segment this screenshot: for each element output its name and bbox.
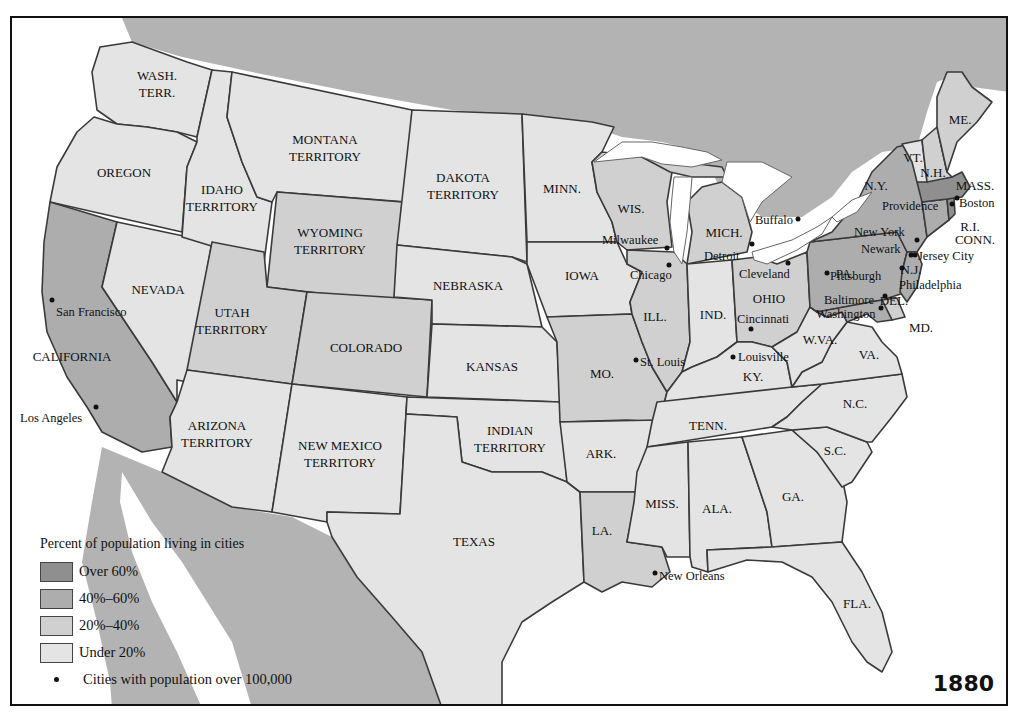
legend-swatch bbox=[40, 616, 73, 636]
label-sc: S.C. bbox=[824, 442, 846, 459]
city-milwaukee: Milwaukee bbox=[602, 233, 658, 247]
label-ri: R.I. bbox=[960, 218, 980, 235]
map-year: 1880 bbox=[933, 671, 994, 696]
label-utah: UTAHTERRITORY bbox=[196, 304, 268, 338]
label-oregon: OREGON bbox=[97, 164, 151, 181]
city-los-angeles: Los Angeles bbox=[20, 411, 82, 425]
legend-label: Under 20% bbox=[79, 644, 145, 661]
city-baltimore: Baltimore bbox=[824, 293, 874, 307]
city-dot-los-angeles bbox=[94, 405, 99, 410]
label-new-mexico: NEW MEXICOTERRITORY bbox=[298, 437, 382, 471]
city-marker-icon bbox=[54, 677, 59, 682]
city-dot-cleveland bbox=[786, 261, 791, 266]
city-dot-washington bbox=[879, 306, 884, 311]
label-kansas: KANSAS bbox=[466, 358, 518, 375]
label-montana: MONTANATERRITORY bbox=[289, 131, 361, 165]
label-dakota: DAKOTATERRITORY bbox=[427, 169, 499, 203]
label-ny: N.Y. bbox=[864, 177, 888, 194]
label-ohio: OHIO bbox=[753, 290, 786, 307]
map-frame: WASH.TERR. OREGON CALIFORNIA NEVADA IDAH… bbox=[10, 16, 1008, 706]
legend-label: Cities with population over 100,000 bbox=[83, 671, 292, 688]
label-md: MD. bbox=[909, 319, 933, 336]
label-ky: KY. bbox=[743, 368, 763, 385]
label-va: VA. bbox=[859, 346, 879, 363]
legend-item-under-20: Under 20% bbox=[40, 639, 292, 666]
city-newark: Newark bbox=[861, 242, 901, 256]
label-wis: WIS. bbox=[617, 200, 644, 217]
label-nh: N.H. bbox=[920, 164, 945, 181]
city-pittsburgh: Pittsburgh bbox=[830, 269, 881, 283]
legend-label: 40%–60% bbox=[79, 590, 139, 607]
label-mich: MICH. bbox=[705, 224, 742, 241]
label-fla: FLA. bbox=[843, 595, 871, 612]
label-idaho: IDAHOTERRITORY bbox=[186, 181, 258, 215]
label-nevada: NEVADA bbox=[131, 281, 184, 298]
label-texas: TEXAS bbox=[453, 533, 495, 550]
legend-swatch bbox=[40, 589, 73, 609]
city-st-louis: St. Louis bbox=[640, 355, 685, 369]
label-ala: ALA. bbox=[702, 500, 732, 517]
legend-item-20-40: 20%–40% bbox=[40, 612, 292, 639]
label-nc: N.C. bbox=[843, 395, 868, 412]
city-new-orleans: New Orleans bbox=[659, 569, 725, 583]
label-minn: MINN. bbox=[543, 180, 581, 197]
city-dot-san-francisco bbox=[50, 298, 55, 303]
label-ind: IND. bbox=[700, 306, 726, 323]
label-nebraska: NEBRASKA bbox=[433, 277, 503, 294]
label-wash: WASH.TERR. bbox=[137, 67, 177, 101]
city-dot-buffalo bbox=[796, 217, 801, 222]
city-boston: Boston bbox=[959, 196, 994, 210]
label-arizona: ARIZONATERRITORY bbox=[181, 417, 253, 451]
city-dot-pittsburgh bbox=[825, 271, 830, 276]
city-chicago: Chicago bbox=[630, 268, 672, 282]
label-colorado: COLORADO bbox=[330, 339, 402, 356]
city-dot-new-orleans bbox=[653, 571, 658, 576]
legend-item-cities: Cities with population over 100,000 bbox=[40, 666, 292, 693]
label-iowa: IOWA bbox=[565, 267, 599, 284]
label-ark: ARK. bbox=[586, 445, 617, 462]
label-wyoming: WYOMINGTERRITORY bbox=[294, 224, 366, 258]
legend-item-over-60: Over 60% bbox=[40, 558, 292, 585]
legend-label: 20%–40% bbox=[79, 617, 139, 634]
city-dot-cincinnati bbox=[749, 327, 754, 332]
city-buffalo: Buffalo bbox=[755, 213, 793, 227]
legend: Percent of population living in cities O… bbox=[40, 536, 292, 693]
label-ill: ILL. bbox=[643, 308, 666, 325]
city-providence: Providence bbox=[882, 199, 938, 213]
legend-swatch bbox=[40, 643, 73, 663]
label-mass: MASS. bbox=[956, 177, 995, 194]
label-me: ME. bbox=[949, 111, 972, 128]
label-california: CALIFORNIA bbox=[33, 348, 112, 365]
city-dot-milwaukee bbox=[665, 246, 670, 251]
city-dot-philadelphia bbox=[900, 266, 905, 271]
city-san-francisco: San Francisco bbox=[56, 305, 126, 319]
city-detroit: Detroit bbox=[704, 249, 739, 263]
label-indian-territory: INDIANTERRITORY bbox=[474, 422, 546, 456]
city-washington: Washington bbox=[816, 307, 875, 321]
city-dot-baltimore bbox=[883, 294, 888, 299]
city-dot-jersey-city bbox=[913, 253, 918, 258]
city-cleveland: Cleveland bbox=[739, 267, 790, 281]
city-jersey-city: Jersey City bbox=[918, 249, 974, 263]
legend-title: Percent of population living in cities bbox=[40, 536, 292, 552]
label-mo: MO. bbox=[590, 365, 614, 382]
label-la: LA. bbox=[592, 522, 613, 539]
city-louisville: Louisville bbox=[738, 350, 789, 364]
city-dot-detroit bbox=[750, 242, 755, 247]
city-dot-new-york bbox=[915, 238, 920, 243]
city-philadelphia: Philadelphia bbox=[899, 278, 962, 292]
city-new-york: New York bbox=[854, 225, 905, 239]
city-dot-louisville bbox=[731, 355, 736, 360]
city-cincinnati: Cincinnati bbox=[737, 312, 789, 326]
city-dot-st-louis bbox=[634, 358, 639, 363]
label-wva: W.VA. bbox=[803, 331, 838, 348]
city-dot-providence bbox=[950, 202, 955, 207]
city-dot-chicago bbox=[667, 263, 672, 268]
legend-label: Over 60% bbox=[79, 563, 138, 580]
label-tenn: TENN. bbox=[689, 417, 727, 434]
legend-item-40-60: 40%–60% bbox=[40, 585, 292, 612]
legend-swatch bbox=[40, 562, 73, 582]
label-ga: GA. bbox=[782, 488, 804, 505]
label-miss: MISS. bbox=[645, 495, 679, 512]
